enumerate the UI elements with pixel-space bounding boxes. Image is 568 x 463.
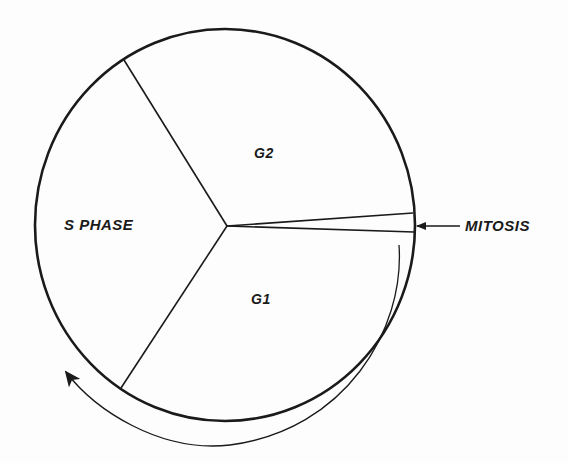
cell-cycle-diagram: S PHASE G2 G1 MITOSIS [0, 0, 568, 463]
g1-label: G1 [251, 291, 271, 307]
divider-s-g2 [124, 60, 227, 226]
divider-s-g1 [121, 226, 227, 388]
direction-arrow [66, 245, 399, 446]
mitosis-label: MITOSIS [465, 217, 530, 234]
divider-g2-mitosis [227, 213, 413, 226]
g2-label: G2 [254, 145, 274, 161]
divider-mitosis-g1 [227, 226, 414, 232]
s-phase-label: S PHASE [64, 216, 133, 233]
